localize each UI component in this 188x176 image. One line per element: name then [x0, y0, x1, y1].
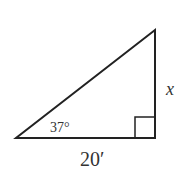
base-side-label: 20′	[80, 148, 104, 170]
triangle-outline	[16, 30, 155, 138]
right-angle-marker	[135, 117, 155, 138]
angle-label: 37°	[50, 120, 70, 135]
right-triangle-diagram: 37° x 20′	[0, 0, 188, 176]
vertical-side-label: x	[165, 79, 174, 99]
